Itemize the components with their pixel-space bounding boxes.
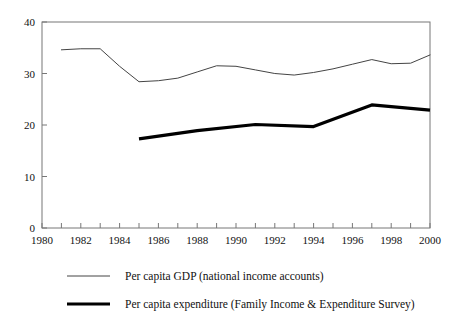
y-tick-label: 40 bbox=[24, 16, 36, 28]
x-tick-label: 1990 bbox=[225, 234, 248, 246]
y-tick-label: 20 bbox=[24, 119, 36, 131]
x-tick-label: 2000 bbox=[419, 234, 442, 246]
x-tick-label: 1986 bbox=[147, 234, 170, 246]
line-chart-svg: 010203040 198019821984198619881990199219… bbox=[0, 0, 453, 327]
x-tick-label: 1992 bbox=[264, 234, 286, 246]
legend-label-per-capita-gdp: Per capita GDP (national income accounts… bbox=[125, 270, 324, 283]
x-tick-label: 1994 bbox=[303, 234, 326, 246]
x-tick-label: 1996 bbox=[341, 234, 364, 246]
legend-label-per-capita-expenditure: Per capita expenditure (Family Income & … bbox=[125, 298, 415, 311]
x-tick-label: 1998 bbox=[380, 234, 403, 246]
x-tick-label: 1988 bbox=[186, 234, 209, 246]
x-tick-label: 1984 bbox=[109, 234, 132, 246]
chart-figure: 010203040 198019821984198619881990199219… bbox=[0, 0, 453, 327]
y-tick-label: 10 bbox=[24, 171, 36, 183]
x-tick-label: 1980 bbox=[31, 234, 54, 246]
y-tick-label: 0 bbox=[30, 222, 36, 234]
x-axis-ticks bbox=[42, 223, 430, 228]
y-tick-label: 30 bbox=[24, 68, 36, 80]
x-tick-label: 1982 bbox=[70, 234, 92, 246]
